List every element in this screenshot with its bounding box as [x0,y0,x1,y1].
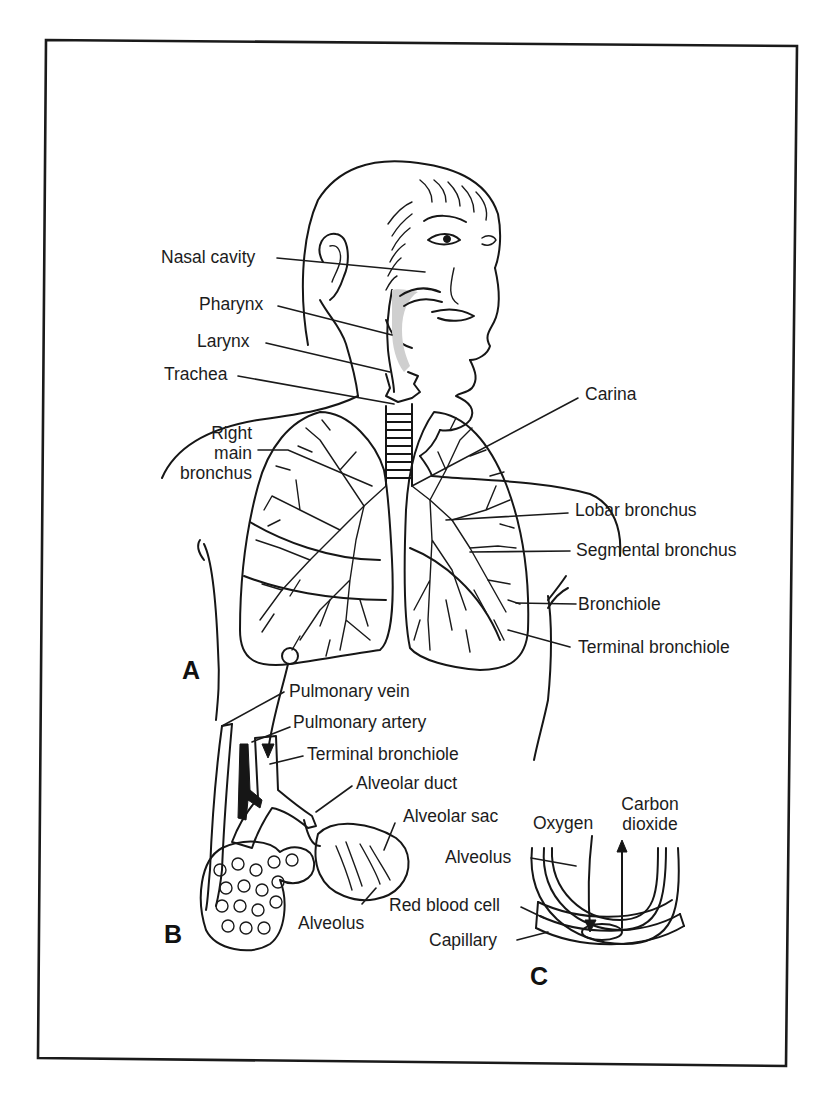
label-carbon-dioxide-line1: Carbon [612,794,688,814]
label-red-blood-cell: Red blood cell [389,895,500,915]
panel-letter-b: B [164,920,182,949]
label-right-main-bronchus-line2: main [160,443,252,463]
label-capillary: Capillary [429,930,497,950]
label-lobar-bronchus: Lobar bronchus [575,500,697,520]
panel-c-artwork [517,836,684,944]
label-terminal-bronchiole: Terminal bronchiole [578,637,730,657]
panel-b-artwork [201,664,409,950]
label-alveolar-sac: Alveolar sac [403,806,498,826]
label-alveolus-c: Alveolus [445,847,511,867]
label-carbon-dioxide-line2: dioxide [612,814,688,834]
panel-letter-a: A [182,656,200,685]
label-nasal-cavity: Nasal cavity [161,247,255,267]
label-alveolar-duct: Alveolar duct [356,773,457,793]
label-bronchiole: Bronchiole [578,594,661,614]
label-oxygen: Oxygen [533,813,593,833]
label-right-main-bronchus: Right main bronchus [160,423,252,483]
label-trachea: Trachea [164,364,228,384]
label-alveolus-b: Alveolus [298,913,364,933]
trachea [386,404,412,486]
label-pulmonary-vein: Pulmonary vein [289,681,410,701]
label-carbon-dioxide: Carbon dioxide [612,794,688,834]
label-larynx: Larynx [197,331,250,351]
label-right-main-bronchus-line3: bronchus [160,463,252,483]
label-right-main-bronchus-line1: Right [160,423,252,443]
label-pharynx: Pharynx [199,294,263,314]
upper-airway [386,289,442,402]
label-pulmonary-artery: Pulmonary artery [293,712,426,732]
label-segmental-bronchus: Segmental bronchus [576,540,737,560]
label-carina: Carina [585,384,637,404]
label-terminal-bronchiole-b: Terminal bronchiole [307,744,459,764]
panel-letter-c: C [530,962,548,991]
